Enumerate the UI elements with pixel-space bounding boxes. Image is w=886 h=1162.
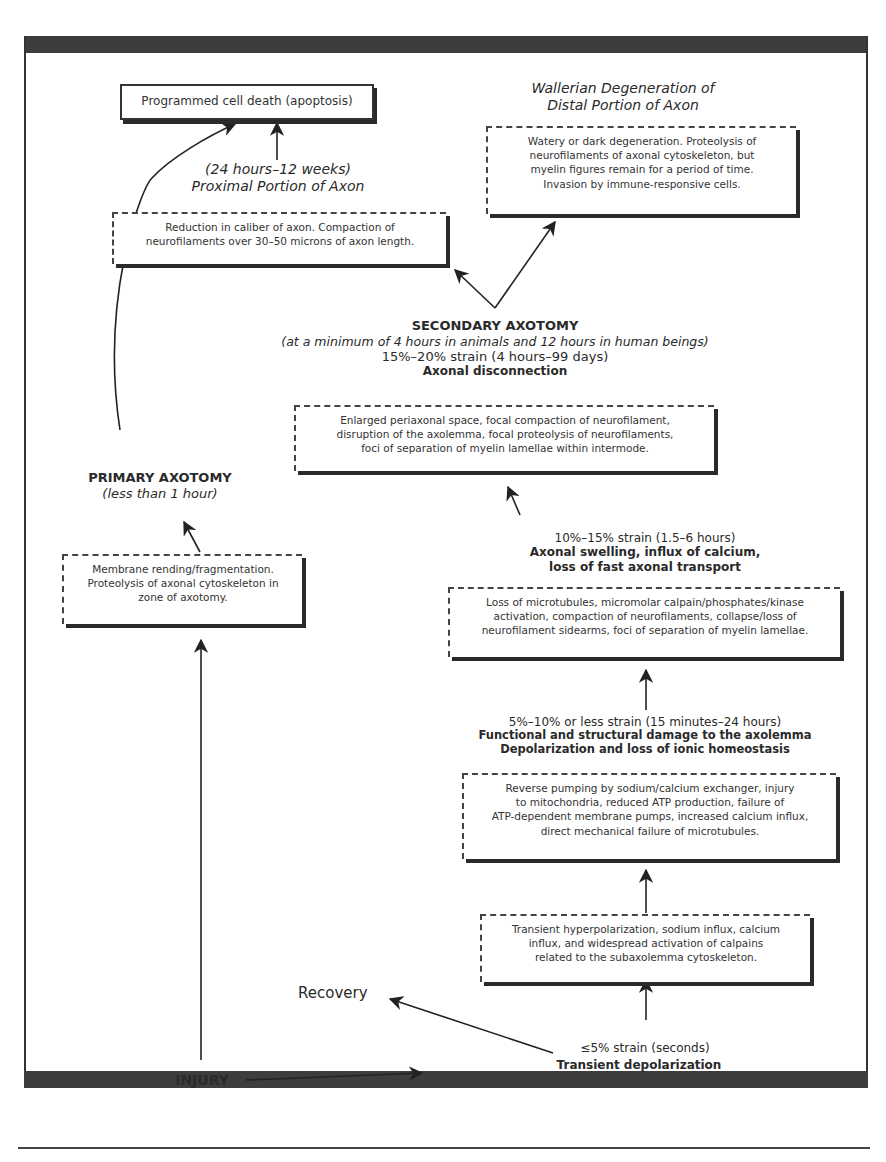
swelling-strain: 10%–15% strain (1.5–6 hours) <box>470 531 820 545</box>
apoptosis-box: Programmed cell death (apoptosis) <box>120 84 374 120</box>
secondary-label: Axonal disconnection <box>230 364 760 378</box>
damage-header: 5%–10% or less strain (15 minutes–24 hou… <box>455 715 835 757</box>
damage-strain: 5%–10% or less strain (15 minutes–24 hou… <box>455 715 835 729</box>
secondary-box: Enlarged periaxonal space, focal compact… <box>294 405 714 471</box>
arrow-primarybox-to-primary <box>184 522 200 552</box>
arrow-mild-to-recovery <box>390 999 553 1053</box>
wallerian-title: Wallerian Degeneration of Distal Portion… <box>488 80 758 114</box>
wallerian-box: Watery or dark degeneration. Proteolysis… <box>486 126 796 214</box>
proximal-box: Reduction in caliber of axon. Compaction… <box>112 212 446 264</box>
transient-box: Transient hyperpolarization, sodium infl… <box>480 914 810 982</box>
arrow-injury-to-mild <box>246 1073 422 1080</box>
arrow-swelling-to-secondary <box>508 487 520 515</box>
arrow-secondary-to-proximal <box>455 270 495 308</box>
secondary-strain: 15%–20% strain (4 hours–99 days) <box>230 349 760 365</box>
primary-note: (less than 1 hour) <box>60 486 260 502</box>
swelling-box: Loss of microtubules, micromolar calpain… <box>448 587 840 657</box>
primary-title: PRIMARY AXOTOMY <box>60 470 260 486</box>
injury-label: INJURY <box>160 1072 244 1089</box>
primary-box: Membrane rending/fragmentation. Proteoly… <box>62 554 302 624</box>
secondary-title: SECONDARY AXOTOMY <box>230 318 760 334</box>
secondary-note: (at a minimum of 4 hours in animals and … <box>230 334 760 349</box>
primary-axotomy-header: PRIMARY AXOTOMY (less than 1 hour) <box>60 470 260 501</box>
damage-box: Reverse pumping by sodium/calcium exchan… <box>462 773 836 859</box>
arrow-secondary-to-wallerian <box>495 222 555 308</box>
apoptosis-label: Programmed cell death (apoptosis) <box>141 94 352 108</box>
secondary-axotomy-header: SECONDARY AXOTOMY (at a minimum of 4 hou… <box>230 318 760 379</box>
mild-label: Transient depolarization <box>549 1058 729 1072</box>
recovery-label: Recovery <box>298 984 368 1002</box>
mild-strain: ≤5% strain (seconds) <box>565 1041 725 1055</box>
proximal-title: (24 hours–12 weeks) Proximal Portion of … <box>150 161 406 195</box>
swelling-header: 10%–15% strain (1.5–6 hours) Axonal swel… <box>470 531 820 574</box>
